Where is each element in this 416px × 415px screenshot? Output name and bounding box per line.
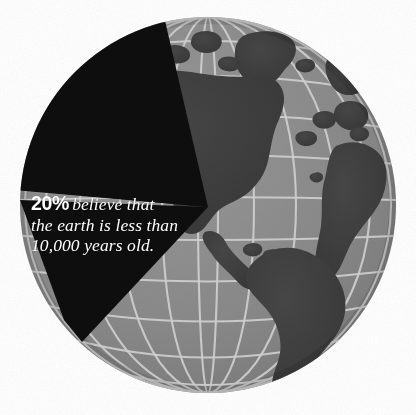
globe-figure [0,0,416,415]
infographic-canvas: 20%believe that the earth is less than 1… [0,0,416,415]
